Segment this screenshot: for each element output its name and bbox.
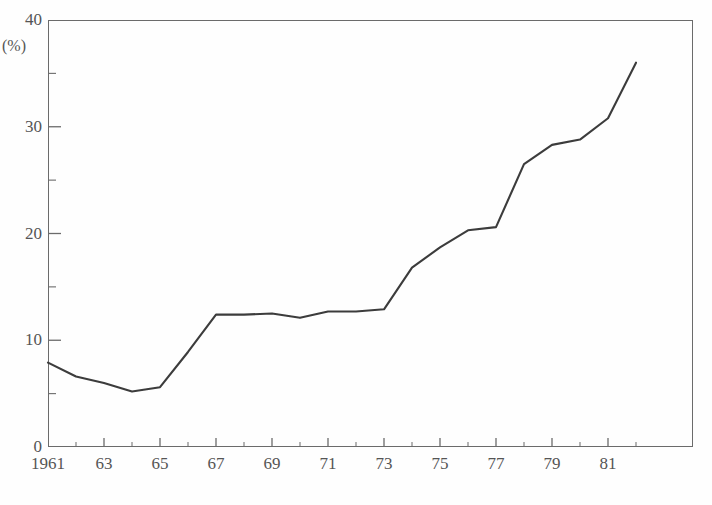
x-tick-label-69: 69: [264, 454, 281, 473]
x-tick-label-73: 73: [376, 454, 393, 473]
data-series-line: [48, 63, 636, 392]
chart-figure: 010203040 (%) 196163656769717375777981: [0, 0, 712, 505]
x-tick-label-81: 81: [600, 454, 617, 473]
x-axis-labels: 196163656769717375777981: [0, 454, 712, 480]
x-tick-label-75: 75: [432, 454, 449, 473]
x-tick-label-1961: 1961: [31, 454, 65, 473]
figure-caption: [0, 487, 712, 505]
x-tick-label-67: 67: [208, 454, 225, 473]
x-tick-label-71: 71: [320, 454, 337, 473]
x-tick-label-79: 79: [544, 454, 561, 473]
x-tick-label-65: 65: [152, 454, 169, 473]
chart-plot-area: [0, 0, 712, 505]
x-tick-label-77: 77: [488, 454, 505, 473]
x-tick-label-63: 63: [96, 454, 113, 473]
